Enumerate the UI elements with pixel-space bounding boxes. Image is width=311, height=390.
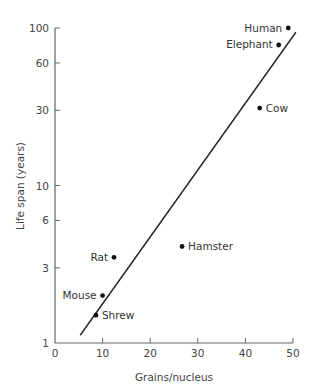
data-point-marker — [180, 244, 185, 249]
data-point-marker — [276, 43, 281, 48]
x-tick-label: 50 — [286, 347, 299, 359]
fit-line — [80, 32, 296, 335]
x-tick-label: 10 — [96, 347, 109, 359]
point-label: Elephant — [226, 38, 273, 50]
data-point-marker — [257, 106, 262, 111]
data-points: HumanElephantCowHamsterRatMouseShrew — [63, 22, 291, 321]
x-axis-title: Grains/nucleus — [135, 371, 213, 383]
point-elephant: Elephant — [226, 38, 281, 50]
point-label: Cow — [266, 102, 289, 114]
y-axis-title: Life span (years) — [14, 142, 26, 230]
point-label: Shrew — [102, 309, 135, 321]
point-hamster: Hamster — [180, 240, 234, 252]
x-tick-label: 40 — [239, 347, 252, 359]
y-tick-label: 6 — [42, 214, 49, 226]
data-point-marker — [286, 26, 291, 31]
point-cow: Cow — [257, 102, 288, 114]
y-tick-label: 10 — [36, 180, 49, 192]
axes: 13610306010001020304050 — [29, 22, 300, 359]
y-tick-label: 1 — [42, 337, 49, 349]
x-tick-label: 0 — [52, 347, 59, 359]
data-point-marker — [94, 313, 99, 318]
data-point-marker — [100, 293, 105, 298]
point-human: Human — [244, 22, 290, 34]
regression-line — [80, 32, 296, 335]
point-rat: Rat — [90, 251, 116, 263]
x-tick-label: 30 — [191, 347, 204, 359]
y-tick-label: 100 — [29, 22, 49, 34]
point-label: Rat — [90, 251, 108, 263]
chart: 13610306010001020304050 HumanElephantCow… — [0, 0, 311, 390]
point-label: Hamster — [188, 240, 234, 252]
point-label: Mouse — [63, 289, 97, 301]
y-tick-label: 30 — [36, 104, 49, 116]
point-mouse: Mouse — [63, 289, 105, 301]
point-shrew: Shrew — [94, 309, 135, 321]
data-point-marker — [112, 255, 117, 260]
point-label: Human — [244, 22, 282, 34]
y-tick-label: 3 — [42, 262, 49, 274]
x-tick-label: 20 — [144, 347, 157, 359]
y-tick-label: 60 — [36, 57, 49, 69]
